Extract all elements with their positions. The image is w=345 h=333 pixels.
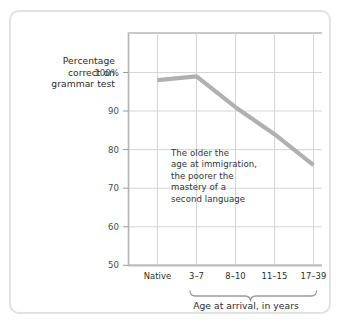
x-tick-label-17-39: 17–39 <box>286 271 341 281</box>
y-tick-label-50: 50 <box>83 260 119 270</box>
y-tick-label-90: 90 <box>83 106 119 116</box>
annotation-line-1: The older the <box>171 148 283 159</box>
y-tick-label-60: 60 <box>83 222 119 232</box>
x-axis-title: Age at arrival, in years <box>161 300 331 311</box>
annotation-line-2: age at immigration, <box>171 159 283 170</box>
annotation-line-3: the poorer the <box>171 171 283 182</box>
line-chart: Percentage correct on grammar test 100% … <box>11 12 333 316</box>
y-tick-label-100: 100% <box>83 68 119 78</box>
y-axis-title-line-1: Percentage <box>15 55 115 67</box>
trend-annotation: The older the age at immigration, the po… <box>171 148 283 205</box>
y-tick-marks <box>123 73 128 266</box>
annotation-line-4: mastery of a <box>171 182 283 193</box>
y-tick-label-80: 80 <box>83 145 119 155</box>
annotation-line-5: second language <box>171 194 283 205</box>
y-axis-title-line-3: grammar test <box>15 78 115 90</box>
figure-card: Percentage correct on grammar test 100% … <box>9 10 331 314</box>
y-tick-label-70: 70 <box>83 183 119 193</box>
